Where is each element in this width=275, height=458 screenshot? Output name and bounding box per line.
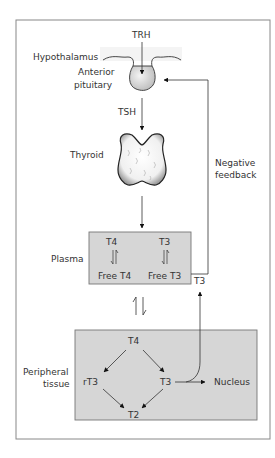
plasma-label: Plasma — [51, 254, 83, 264]
free-t4-label: Free T4 — [98, 271, 131, 281]
free-t3-label: Free T3 — [148, 271, 181, 281]
plasma-t4-label: T4 — [105, 237, 117, 247]
t3-export-label: T3 — [193, 276, 205, 286]
plasma-tissue-equilibrium-arrows — [133, 297, 146, 315]
plasma-t3-label: T3 — [158, 237, 170, 247]
tissue-t4-label: T4 — [127, 336, 139, 346]
hypothalamus — [100, 47, 182, 66]
rt3-label: rT3 — [83, 377, 98, 387]
tissue-t3-label: T3 — [159, 377, 171, 387]
peripheral-label: Peripheral — [23, 367, 69, 377]
tsh-label: TSH — [117, 107, 136, 117]
nucleus-label: Nucleus — [214, 377, 250, 387]
pituitary-label: pituitary — [74, 80, 113, 90]
thyroid-label: Thyroid — [69, 150, 104, 160]
t2-label: T2 — [127, 410, 139, 420]
negative-label: Negative — [215, 158, 256, 168]
tissue-label: tissue — [43, 379, 70, 389]
hypothalamus-label: Hypothalamus — [33, 52, 99, 62]
peripheral-tissue-box — [75, 330, 257, 420]
anterior-label: Anterior — [78, 67, 115, 77]
feedback-label: feedback — [215, 170, 257, 180]
thyroid-axis-diagram: Hypothalamus Anterior pituitary TRH TSH … — [0, 0, 275, 458]
trh-label: TRH — [131, 30, 151, 40]
thyroid-gland — [118, 134, 166, 185]
